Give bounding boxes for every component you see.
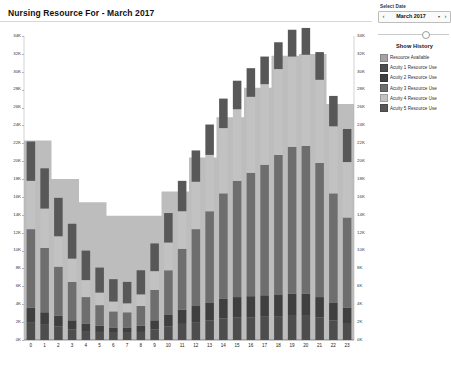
bar-group[interactable]	[95, 268, 104, 340]
bar-group[interactable]	[343, 129, 352, 340]
bar-segment[interactable]	[247, 173, 256, 296]
bar-group[interactable]	[109, 279, 118, 340]
bar-segment[interactable]	[274, 294, 283, 316]
bar-segment[interactable]	[95, 305, 104, 326]
bar-segment[interactable]	[164, 213, 173, 243]
bar-segment[interactable]	[288, 57, 297, 147]
bar-segment[interactable]	[109, 302, 118, 312]
bar-segment[interactable]	[164, 270, 173, 315]
bar-segment[interactable]	[95, 293, 104, 306]
bar-group[interactable]	[164, 213, 173, 340]
bar-segment[interactable]	[109, 333, 118, 340]
bar-segment[interactable]	[329, 193, 338, 302]
bar-segment[interactable]	[233, 181, 242, 297]
bar-group[interactable]	[260, 57, 269, 340]
bar-segment[interactable]	[302, 294, 311, 316]
chevron-right-icon[interactable]: ›	[442, 12, 449, 21]
bar-segment[interactable]	[68, 329, 77, 340]
bar-segment[interactable]	[315, 318, 324, 340]
bar-segment[interactable]	[247, 97, 256, 173]
bar-segment[interactable]	[192, 306, 201, 322]
bar-segment[interactable]	[233, 297, 242, 318]
bar-segment[interactable]	[137, 332, 146, 340]
bar-segment[interactable]	[343, 218, 352, 308]
legend-item[interactable]: Resource Available	[380, 54, 451, 62]
bar-segment[interactable]	[274, 155, 283, 294]
bar-group[interactable]	[137, 270, 146, 340]
bar-segment[interactable]	[27, 181, 36, 229]
bar-segment[interactable]	[205, 302, 214, 320]
bar-segment[interactable]	[315, 163, 324, 297]
bar-segment[interactable]	[68, 320, 77, 329]
bar-segment[interactable]	[40, 209, 49, 248]
bar-segment[interactable]	[192, 150, 201, 181]
chevron-left-icon[interactable]: ‹	[380, 12, 387, 21]
bar-segment[interactable]	[192, 182, 201, 229]
bar-segment[interactable]	[54, 198, 63, 236]
bar-segment[interactable]	[68, 224, 77, 259]
bar-segment[interactable]	[205, 320, 214, 340]
bar-segment[interactable]	[150, 271, 159, 290]
chevron-down-icon[interactable]: ▾	[435, 12, 442, 21]
date-picker[interactable]: ‹ March 2017 ▾ ›	[378, 11, 451, 23]
bar-segment[interactable]	[315, 297, 324, 318]
bar-segment[interactable]	[40, 312, 49, 325]
bar-segment[interactable]	[219, 128, 228, 193]
bar-segment[interactable]	[123, 303, 132, 312]
bar-segment[interactable]	[109, 279, 118, 301]
bar-segment[interactable]	[137, 294, 146, 306]
bar-segment[interactable]	[164, 315, 173, 327]
bar-segment[interactable]	[82, 280, 91, 297]
bar-segment[interactable]	[27, 322, 36, 340]
bar-segment[interactable]	[178, 249, 187, 310]
bar-segment[interactable]	[40, 168, 49, 208]
bar-segment[interactable]	[288, 294, 297, 316]
bar-segment[interactable]	[95, 326, 104, 332]
bar-segment[interactable]	[329, 96, 338, 126]
bar-segment[interactable]	[27, 229, 36, 308]
history-slider[interactable]	[378, 30, 449, 39]
bar-group[interactable]	[123, 282, 132, 340]
bar-segment[interactable]	[260, 57, 269, 85]
bar-segment[interactable]	[150, 329, 159, 340]
bar-segment[interactable]	[123, 282, 132, 303]
bar-segment[interactable]	[260, 84, 269, 164]
bar-segment[interactable]	[260, 317, 269, 340]
bar-segment[interactable]	[288, 147, 297, 294]
bar-segment[interactable]	[82, 331, 91, 340]
bar-segment[interactable]	[302, 316, 311, 340]
bar-segment[interactable]	[54, 316, 63, 327]
bar-segment[interactable]	[27, 308, 36, 322]
bar-segment[interactable]	[137, 326, 146, 332]
bar-group[interactable]	[233, 81, 242, 340]
bar-segment[interactable]	[343, 323, 352, 340]
bar-group[interactable]	[68, 224, 77, 340]
bar-group[interactable]	[315, 52, 324, 340]
bar-segment[interactable]	[247, 296, 256, 317]
show-history-label[interactable]: Show History	[378, 43, 451, 49]
bar-segment[interactable]	[233, 318, 242, 340]
bar-segment[interactable]	[109, 327, 118, 332]
bar-group[interactable]	[302, 28, 311, 340]
bar-group[interactable]	[178, 181, 187, 340]
bar-segment[interactable]	[260, 295, 269, 316]
bar-segment[interactable]	[82, 297, 91, 324]
bar-segment[interactable]	[247, 68, 256, 97]
bar-segment[interactable]	[315, 80, 324, 163]
bar-segment[interactable]	[343, 129, 352, 162]
bar-group[interactable]	[192, 150, 201, 340]
bar-segment[interactable]	[68, 259, 77, 282]
bar-segment[interactable]	[192, 229, 201, 306]
bar-segment[interactable]	[82, 251, 91, 281]
bar-group[interactable]	[288, 30, 297, 340]
bar-group[interactable]	[205, 125, 214, 340]
legend-item[interactable]: Acuity 5 Resource Use	[380, 104, 451, 112]
bar-group[interactable]	[274, 42, 283, 340]
bar-segment[interactable]	[150, 320, 159, 329]
bar-segment[interactable]	[233, 81, 242, 110]
bar-segment[interactable]	[343, 162, 352, 217]
bar-group[interactable]	[247, 68, 256, 340]
bar-segment[interactable]	[329, 320, 338, 340]
bar-segment[interactable]	[137, 270, 146, 294]
bar-segment[interactable]	[68, 282, 77, 320]
